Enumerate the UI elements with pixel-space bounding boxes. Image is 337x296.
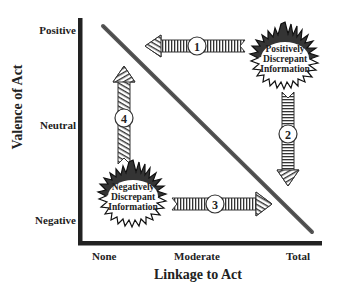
arrow-3-number: 3 [212, 198, 218, 212]
positive-burst-line-3: Information [256, 64, 314, 74]
x-axis-line [78, 241, 322, 246]
arrow-1-left: 1 [145, 35, 245, 57]
negative-burst-line-3: Information [103, 202, 163, 212]
y-tick-negative: Negative [35, 215, 76, 226]
arrow-2-number: 2 [285, 128, 291, 142]
y-axis-title: Valence of Act [11, 52, 25, 162]
positive-burst-line-1: Positively [256, 44, 314, 54]
positive-burst-line-2: Discrepant [256, 54, 314, 64]
positive-burst-text: Positively Discrepant Information [256, 44, 314, 74]
arrow-4-up: 4 [113, 66, 135, 164]
negative-burst-line-2: Discrepant [103, 192, 163, 202]
negative-burst-text: Negatively Discrepant Information [103, 182, 163, 212]
diagram-canvas: 1 2 3 4 [0, 0, 337, 296]
arrow-3-right: 3 [172, 192, 272, 216]
y-axis-line [78, 18, 83, 245]
y-tick-positive: Positive [39, 25, 76, 36]
x-axis-title: Linkage to Act [154, 268, 242, 282]
x-tick-total: Total [286, 251, 310, 262]
x-tick-none: None [92, 251, 116, 262]
y-tick-neutral: Neutral [40, 120, 76, 131]
arrow-2-down: 2 [277, 92, 299, 186]
x-tick-moderate: Moderate [174, 251, 220, 262]
arrow-4-number: 4 [121, 112, 127, 126]
arrow-1-number: 1 [194, 40, 200, 54]
negative-burst-line-1: Negatively [103, 182, 163, 192]
